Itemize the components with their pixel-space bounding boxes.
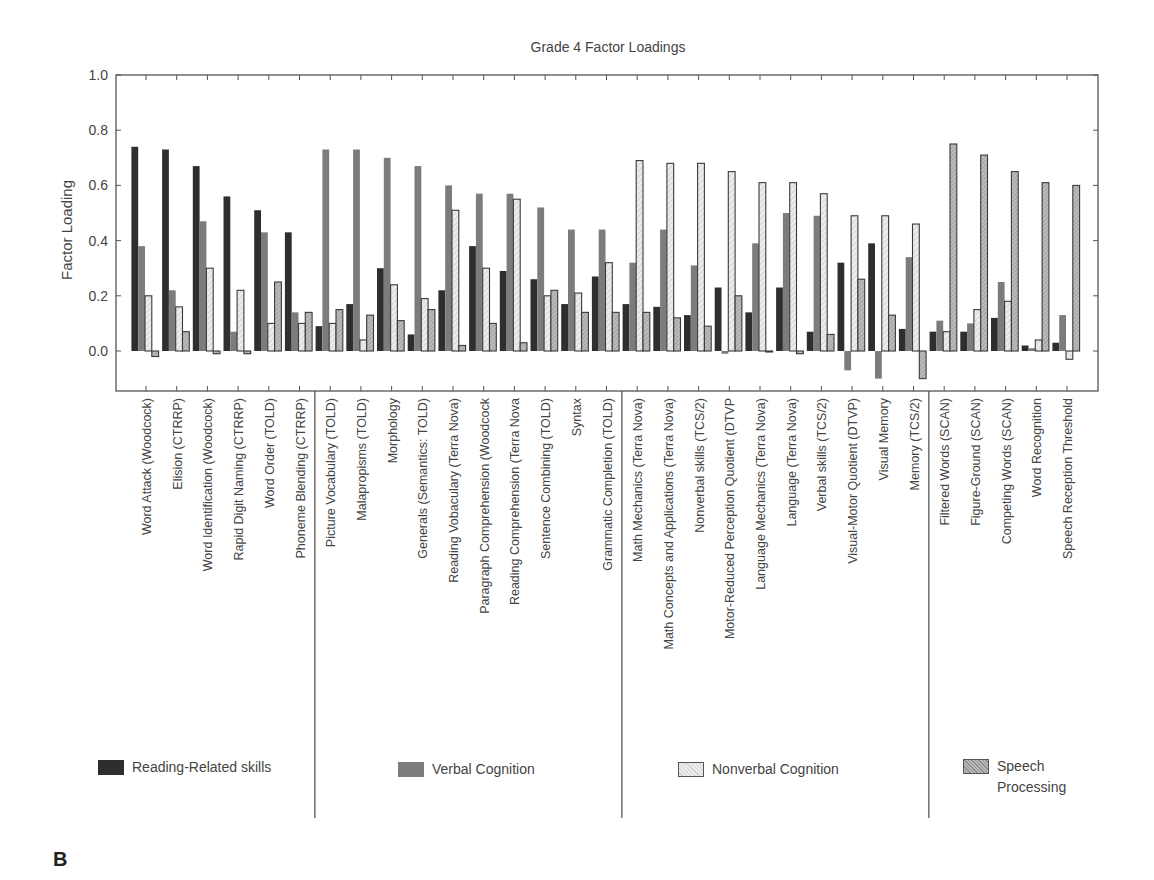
bar: [998, 282, 1005, 351]
x-tick-label: Filtered Words (SCAN): [938, 398, 952, 526]
x-tick-label: Word Attack (Woodcock): [140, 398, 154, 535]
bar: [353, 150, 360, 351]
x-tick-label: Generals (Semantics: TOLD): [416, 398, 430, 559]
bar: [875, 351, 882, 379]
bar: [299, 323, 306, 351]
bar: [459, 345, 466, 351]
bar: [145, 296, 152, 351]
factor-loadings-chart: Grade 4 Factor Loadings Factor Loading 0…: [0, 0, 1154, 880]
x-tick-label: Speech Reception Threshold: [1061, 398, 1075, 559]
bar: [261, 232, 268, 351]
bar: [445, 185, 452, 351]
bar: [531, 279, 538, 351]
bar: [967, 323, 974, 351]
bar: [991, 318, 998, 351]
bar: [237, 290, 244, 351]
bar: [285, 232, 292, 351]
x-tick-label: Syntax: [570, 397, 584, 436]
bar: [391, 285, 398, 351]
bar: [367, 315, 374, 351]
bar: [943, 332, 950, 351]
x-tick-label: Word Recognition: [1030, 398, 1044, 497]
bar: [950, 144, 957, 351]
x-tick-label: Nonverbal skills (TCS/2): [693, 398, 707, 533]
legend-swatch-icon: [398, 762, 424, 777]
bar: [336, 310, 343, 351]
bar: [936, 321, 943, 351]
bar: [827, 334, 834, 351]
x-tick-label: Malapropisms (TOLD): [355, 398, 369, 521]
bar: [820, 194, 827, 351]
x-tick-label: Reading Vobaculary (Terra Nova): [447, 398, 461, 583]
bar: [500, 271, 507, 351]
bar: [838, 263, 845, 351]
bar: [913, 224, 920, 351]
bar: [653, 307, 660, 351]
bar: [882, 216, 889, 351]
bar: [766, 351, 773, 352]
bar: [1052, 343, 1059, 351]
x-tick-label: Language (Terra Nova): [785, 398, 799, 527]
bar: [974, 310, 981, 351]
x-tick-label: Memory (TCS/2): [908, 398, 922, 490]
bar: [660, 230, 667, 351]
bar: [704, 326, 711, 351]
x-tick-label: Word Order (TOLD): [263, 398, 277, 508]
bar: [438, 290, 445, 351]
bar: [415, 166, 422, 351]
legend-label: Speech Processing: [997, 756, 1083, 798]
x-tick-label: Rapid Digit Naming (CTRRP): [232, 398, 246, 561]
bar: [807, 332, 814, 351]
bar: [1022, 345, 1029, 351]
bar: [722, 351, 729, 354]
bar: [1029, 348, 1036, 351]
bar: [814, 216, 821, 351]
bar: [715, 288, 722, 351]
legend-item: Reading-Related skills: [98, 759, 271, 775]
bar: [592, 276, 599, 351]
bar: [152, 351, 159, 357]
x-tick-label: Paragraph Comprehension (Woodcock: [478, 397, 492, 614]
legend-swatch-icon: [98, 760, 124, 775]
bar: [183, 332, 190, 351]
bar: [889, 315, 896, 351]
bar: [162, 150, 169, 351]
bar: [131, 147, 138, 351]
x-tick-label: Reading Comprehension (Terra Nova: [508, 398, 522, 605]
x-tick-label: Grammatic Completion (TOLD): [601, 398, 615, 571]
bar: [544, 296, 551, 351]
bar: [797, 351, 804, 354]
bar: [292, 312, 299, 351]
bar: [513, 199, 520, 351]
x-tick-label: Competing Words (SCAN): [1000, 398, 1014, 544]
legend-swatch-icon: [963, 759, 989, 774]
bar: [790, 183, 797, 351]
bar: [224, 196, 231, 351]
bar: [520, 343, 527, 351]
bar: [469, 246, 476, 351]
x-tick-label: Visual-Motor Quotient (DTVP): [846, 398, 860, 564]
bar: [745, 312, 752, 351]
legend-swatch-icon: [678, 762, 704, 777]
x-tick-label: Verbal skills (TCS/2): [815, 398, 829, 511]
x-tick-label: Phoneme Blending (CTRRP): [294, 398, 308, 559]
bar: [906, 257, 913, 351]
bar: [428, 310, 435, 351]
bar: [643, 312, 650, 351]
bar: [408, 334, 415, 351]
bar: [138, 246, 145, 351]
y-tick-label: 0.6: [89, 177, 109, 193]
bar: [176, 307, 183, 351]
panel-letter: B: [53, 848, 67, 871]
bar: [868, 243, 875, 351]
bar: [206, 268, 213, 351]
bar: [582, 312, 589, 351]
x-tick-label: Figure-Ground (SCAN): [969, 398, 983, 526]
x-tick-label: Picture Vocabulary (TOLD): [324, 398, 338, 547]
bar: [960, 332, 967, 351]
bar: [305, 312, 312, 351]
y-axis-label: Factor Loading: [58, 180, 75, 280]
bar: [981, 155, 988, 351]
bar: [776, 288, 783, 351]
bar: [490, 323, 497, 351]
